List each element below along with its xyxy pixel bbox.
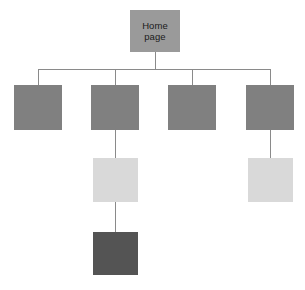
node-home-page-label: Home page bbox=[140, 20, 170, 43]
node-level2-2[interactable] bbox=[248, 158, 293, 202]
node-level1-2[interactable] bbox=[91, 85, 139, 130]
node-level1-1[interactable] bbox=[14, 85, 62, 130]
node-level2-1[interactable] bbox=[93, 158, 138, 202]
node-level1-4[interactable] bbox=[246, 85, 294, 130]
sitemap-diagram: Home page bbox=[0, 0, 305, 290]
node-level3-1[interactable] bbox=[93, 232, 138, 275]
node-level1-3[interactable] bbox=[168, 85, 216, 130]
node-layer: Home page bbox=[0, 0, 305, 290]
node-home-page[interactable]: Home page bbox=[130, 10, 180, 52]
